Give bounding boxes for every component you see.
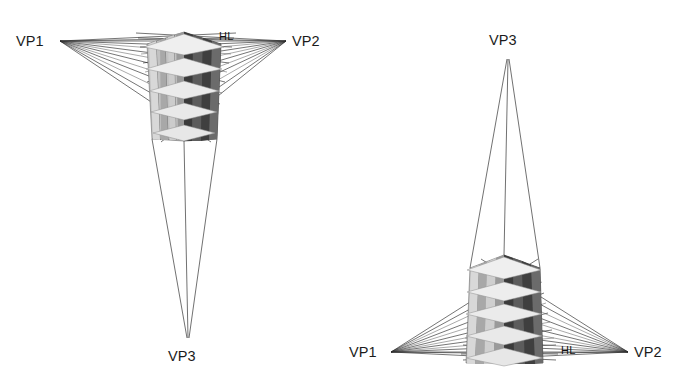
tower-right xyxy=(466,255,543,366)
label-vp1-right: VP1 xyxy=(349,344,377,360)
tower-left xyxy=(144,32,224,141)
perspective-diagram: VP1 VP2 VP3 HL xyxy=(0,0,687,389)
panel-birds-eye: VP1 VP2 VP3 HL xyxy=(349,32,662,366)
label-hl-left: HL xyxy=(219,30,233,42)
panel-worms-eye: VP1 VP2 VP3 HL xyxy=(16,30,320,364)
label-vp1-left: VP1 xyxy=(16,33,44,49)
label-vp2-right: VP2 xyxy=(634,344,662,360)
vp3-vertical-rays-left xyxy=(152,139,217,338)
label-vp3-right: VP3 xyxy=(489,32,517,48)
label-hl-right: HL xyxy=(561,344,575,356)
diagram-canvas: VP1 VP2 VP3 HL xyxy=(0,0,687,389)
label-vp3-left: VP3 xyxy=(168,348,196,364)
vp3-vertical-rays-right xyxy=(470,59,540,268)
label-vp2-left: VP2 xyxy=(292,33,320,49)
